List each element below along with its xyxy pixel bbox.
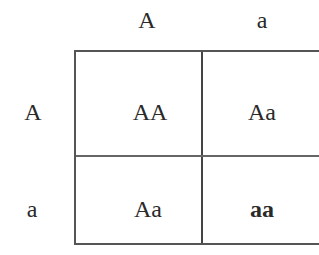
cell-Aa-top: Aa (248, 100, 276, 124)
cell-AA: AA (133, 100, 168, 124)
column-header-2: a (257, 8, 268, 32)
grid-divider-vertical (201, 52, 203, 243)
cell-aa: aa (250, 197, 274, 221)
cell-Aa-bottom: Aa (134, 197, 162, 221)
column-header-1: A (138, 8, 155, 32)
punnett-grid (74, 50, 319, 245)
row-header-1: A (24, 100, 41, 124)
row-header-2: a (27, 197, 38, 221)
grid-divider-horizontal (76, 155, 319, 157)
